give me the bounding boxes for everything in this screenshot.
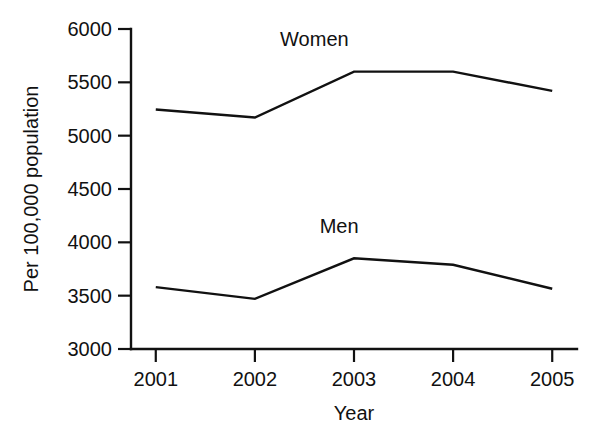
series-label-women: Women bbox=[280, 28, 349, 50]
line-chart: 3000350040004500500055006000 Per 100,000… bbox=[0, 0, 602, 440]
y-tick-label: 3500 bbox=[68, 285, 113, 307]
x-axis: 20012002200320042005 Year bbox=[131, 349, 577, 424]
series-labels: WomenMen bbox=[280, 28, 359, 237]
x-tick-label: 2002 bbox=[233, 368, 278, 390]
y-tick-label: 4000 bbox=[68, 231, 113, 253]
y-tick-label: 3000 bbox=[68, 338, 113, 360]
x-tick-label: 2003 bbox=[332, 368, 377, 390]
y-tick-label: 5500 bbox=[68, 71, 113, 93]
y-axis-title: Per 100,000 population bbox=[20, 86, 42, 293]
y-axis-ticks bbox=[118, 29, 131, 349]
series-label-men: Men bbox=[320, 215, 359, 237]
x-tick-label: 2004 bbox=[431, 368, 476, 390]
x-tick-label: 2001 bbox=[134, 368, 179, 390]
y-tick-label: 5000 bbox=[68, 125, 113, 147]
y-axis: 3000350040004500500055006000 Per 100,000… bbox=[20, 18, 131, 360]
series-line-men bbox=[156, 258, 552, 299]
x-axis-title: Year bbox=[334, 402, 375, 424]
y-tick-label: 6000 bbox=[68, 18, 113, 40]
chart-canvas: 3000350040004500500055006000 Per 100,000… bbox=[0, 0, 602, 440]
x-tick-label: 2005 bbox=[530, 368, 575, 390]
y-axis-tick-labels: 3000350040004500500055006000 bbox=[68, 18, 113, 360]
series-line-women bbox=[156, 72, 552, 118]
x-axis-tick-labels: 20012002200320042005 bbox=[134, 368, 575, 390]
y-tick-label: 4500 bbox=[68, 178, 113, 200]
series-lines bbox=[156, 72, 552, 299]
x-axis-ticks bbox=[156, 349, 552, 362]
